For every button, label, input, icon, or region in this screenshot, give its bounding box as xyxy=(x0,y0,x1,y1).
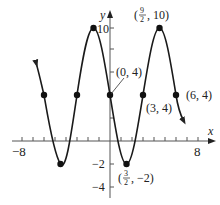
point xyxy=(173,92,179,98)
svg-text:(: ( xyxy=(118,171,122,185)
point xyxy=(90,25,96,31)
annotation-0-4: (0, 4) xyxy=(116,65,142,79)
point xyxy=(41,92,47,98)
svg-text:2: 2 xyxy=(140,15,144,24)
svg-text:, 10): , 10) xyxy=(147,8,169,22)
y-axis-label: y xyxy=(99,8,106,22)
point xyxy=(140,92,146,98)
svg-text:9: 9 xyxy=(140,6,144,15)
svg-text:, −2): , −2) xyxy=(131,171,154,185)
annotation-max: ( 9 2 , 10) xyxy=(134,6,169,24)
leader-line xyxy=(111,78,124,94)
annotation-6-4: (6, 4) xyxy=(186,88,212,102)
y-tick-label-10: 10 xyxy=(97,22,109,36)
point xyxy=(156,25,162,31)
point xyxy=(74,92,80,98)
svg-text:(: ( xyxy=(134,8,138,22)
y-tick-label-neg4: −4 xyxy=(92,180,105,194)
x-axis-label: x xyxy=(207,124,214,138)
point xyxy=(57,161,63,167)
sine-graph: x −8 8 y 10 −2 −4 (0, 4) ( xyxy=(0,0,220,205)
x-tick-label-max: 8 xyxy=(194,144,201,159)
annotation-min: ( 3 2 , −2) xyxy=(118,169,154,187)
y-tick-label-neg2: −2 xyxy=(92,157,105,171)
annotation-3-4: (3, 4) xyxy=(146,101,172,115)
x-axis: x −8 8 xyxy=(12,124,214,159)
point xyxy=(123,161,129,167)
x-tick-label-min: −8 xyxy=(12,144,26,159)
svg-text:3: 3 xyxy=(124,169,128,178)
svg-text:2: 2 xyxy=(124,178,128,187)
